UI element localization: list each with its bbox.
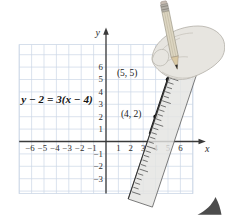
y-tick-label: 1 [99,124,103,134]
y-tick-label: 6 [99,62,104,72]
y-tick-label: −2 [94,161,103,171]
y-tick-label: 5 [99,74,104,84]
y-tick-label: 3 [99,99,104,109]
y-tick-label: −1 [94,149,103,159]
x-tick-label: −6 [25,143,35,153]
point-label-55: (5, 5) [117,68,138,79]
x-axis-label: x [204,143,210,154]
y-axis-tick-labels: 654321−1−2−3 [94,62,104,184]
x-tick-label: −3 [63,143,73,153]
y-tick-label: −3 [94,174,104,184]
point-label-42: (4, 2) [121,109,142,120]
y-axis-label: y [95,27,101,38]
textbook-figure: x y −6−5−4−3−2−1123456 654321−1−2−3 y − … [0,0,225,219]
y-tick-label: 4 [99,87,104,97]
x-tick-label: −5 [38,143,48,153]
y-axis-arrow-icon [103,28,109,35]
x-tick-label: −4 [50,143,60,153]
x-tick-label: 6 [178,143,183,153]
y-tick-label: 2 [99,112,103,122]
x-tick-label: 1 [116,143,120,153]
page-corner-swoosh [198,197,222,215]
x-tick-label: 2 [129,143,133,153]
graph-canvas: x y −6−5−4−3−2−1123456 654321−1−2−3 y − … [0,0,225,219]
x-tick-label: −2 [75,143,84,153]
equation-label: y − 2 = 3(x − 4) [19,93,93,106]
